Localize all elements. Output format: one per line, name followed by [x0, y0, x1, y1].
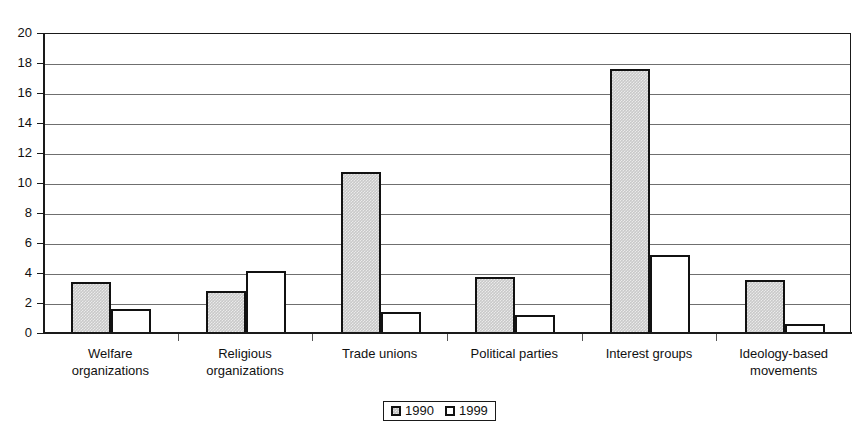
legend-label-1999: 1999 — [459, 404, 488, 417]
legend-item-1990: 1990 — [391, 404, 434, 417]
y-tick-label: 18 — [0, 56, 32, 69]
gridline — [44, 184, 850, 185]
gridline — [44, 214, 850, 215]
bar-1999-1 — [111, 309, 151, 335]
bar-1990-1 — [71, 282, 111, 335]
y-tick-label: 0 — [0, 326, 32, 339]
bar-1990-4 — [475, 277, 515, 334]
gridline — [44, 94, 850, 95]
x-tick-mark — [447, 334, 448, 341]
gridline — [44, 244, 850, 245]
x-tick-mark — [312, 334, 313, 341]
y-tick-label: 4 — [0, 266, 32, 279]
gridline — [44, 304, 850, 305]
y-tick-label: 8 — [0, 206, 32, 219]
bar-1999-2 — [246, 271, 286, 334]
bar-1999-5 — [650, 255, 690, 335]
x-category-label: Ideology-based movements — [716, 345, 851, 379]
bar-1990-6 — [745, 280, 785, 334]
x-category-label: Political parties — [447, 345, 582, 362]
y-tick-label: 16 — [0, 86, 32, 99]
bar-1990-3 — [341, 172, 381, 334]
y-tick-label: 12 — [0, 146, 32, 159]
bar-chart: 02468101214161820 Welfare organizationsR… — [0, 0, 866, 447]
bar-1990-2 — [206, 291, 246, 335]
y-tick-label: 14 — [0, 116, 32, 129]
legend: 1990 1999 — [383, 401, 496, 421]
x-tick-mark — [178, 334, 179, 341]
legend-swatch-1990-icon — [391, 406, 401, 416]
gridline — [44, 64, 850, 65]
x-category-label: Welfare organizations — [43, 345, 178, 379]
x-category-label: Trade unions — [312, 345, 447, 362]
x-category-label: Interest groups — [582, 345, 717, 362]
x-tick-mark — [716, 334, 717, 341]
y-tick-label: 10 — [0, 176, 32, 189]
y-tick-label: 2 — [0, 296, 32, 309]
x-tick-mark — [582, 334, 583, 341]
gridline — [44, 154, 850, 155]
legend-item-1999: 1999 — [445, 404, 488, 417]
gridline — [44, 274, 850, 275]
x-category-label: Religious organizations — [178, 345, 313, 379]
bar-1999-3 — [381, 312, 421, 335]
y-tick-label: 6 — [0, 236, 32, 249]
legend-label-1990: 1990 — [405, 404, 434, 417]
y-axis-line — [43, 33, 45, 334]
y-tick-label: 20 — [0, 26, 32, 39]
bar-1990-5 — [610, 69, 650, 335]
legend-swatch-1999-icon — [445, 406, 455, 416]
plot-area — [43, 33, 851, 333]
gridline — [44, 124, 850, 125]
